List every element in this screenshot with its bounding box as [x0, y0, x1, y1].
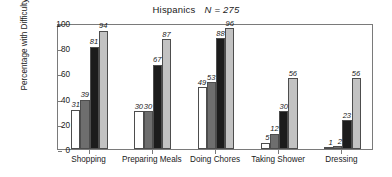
bar[interactable]	[270, 134, 279, 149]
bar-value-label: 12	[270, 124, 278, 133]
bar-value-label: 23	[343, 111, 351, 120]
bar[interactable]	[144, 111, 153, 149]
chart-title-main: Hispanics	[153, 4, 196, 15]
plot-area: 3139819430306787495388965123056122356	[57, 24, 373, 150]
y-axis-label: Percentage with Difficulty	[20, 0, 29, 117]
bar-value-label: 2	[338, 137, 342, 146]
bar-value-label: 56	[352, 69, 360, 78]
bar[interactable]	[90, 47, 99, 149]
chart-title: HispanicsN = 275	[0, 4, 392, 15]
plot-inner: 3139819430306787495388965123056122356	[58, 25, 372, 149]
bar[interactable]	[342, 120, 351, 149]
bar-value-label: 1	[328, 138, 332, 147]
bar[interactable]	[279, 111, 288, 149]
x-tick-label: Dressing	[325, 155, 357, 164]
bar[interactable]	[162, 39, 171, 149]
bar-group: 49538896	[198, 25, 235, 149]
bar[interactable]	[80, 100, 89, 149]
bar-value-label: 81	[90, 37, 98, 46]
bar[interactable]	[324, 147, 333, 149]
bar[interactable]	[333, 146, 342, 149]
x-tick-mark	[278, 150, 279, 154]
y-tick-label: 40	[30, 95, 70, 104]
bar[interactable]	[198, 87, 207, 149]
bar[interactable]	[352, 78, 361, 149]
x-tick-mark	[341, 150, 342, 154]
y-tick-label: 20	[30, 120, 70, 129]
chart-figure: HispanicsN = 275 Percentage with Difficu…	[0, 0, 392, 177]
bar[interactable]	[288, 78, 297, 149]
bar-group: 122356	[324, 25, 361, 149]
bar-value-label: 39	[81, 90, 89, 99]
bar[interactable]	[153, 65, 162, 149]
y-tick-label: 80	[30, 45, 70, 54]
bar-value-label: 67	[153, 55, 161, 64]
bar-value-label: 94	[99, 21, 107, 30]
bar-value-label: 87	[162, 30, 170, 39]
bar-value-label: 56	[289, 69, 297, 78]
x-tick-label: Taking Shower	[251, 155, 305, 164]
bar-group: 31398194	[71, 25, 108, 149]
bar[interactable]	[225, 28, 234, 149]
bar-group: 5123056	[261, 25, 298, 149]
y-tick-label: 100	[30, 20, 70, 29]
bar-value-label: 96	[225, 19, 233, 28]
bar-value-label: 53	[207, 73, 215, 82]
bar-value-label: 30	[279, 102, 287, 111]
bar[interactable]	[71, 110, 80, 149]
x-tick-label: Doing Chores	[190, 155, 240, 164]
bar-group: 30306787	[134, 25, 171, 149]
x-tick-label: Preparing Meals	[122, 155, 182, 164]
x-tick-mark	[215, 150, 216, 154]
bar[interactable]	[216, 38, 225, 149]
x-tick-label: Shopping	[71, 155, 106, 164]
bar[interactable]	[134, 111, 143, 149]
bar-value-label: 31	[71, 100, 79, 109]
y-tick-label: 60	[30, 70, 70, 79]
bar[interactable]	[261, 143, 270, 149]
chart-title-sample-size: N = 275	[205, 4, 240, 15]
bar-value-label: 5	[265, 133, 269, 142]
bar[interactable]	[207, 82, 216, 149]
x-axis: ShoppingPreparing MealsDoing ChoresTakin…	[57, 150, 373, 177]
bar-value-label: 30	[144, 102, 152, 111]
bar[interactable]	[99, 31, 108, 149]
x-tick-mark	[89, 150, 90, 154]
bar-value-label: 30	[135, 102, 143, 111]
x-tick-mark	[152, 150, 153, 154]
y-tick-label: 0	[30, 146, 70, 155]
bar-value-label: 49	[198, 78, 206, 87]
bar-value-label: 88	[216, 29, 224, 38]
